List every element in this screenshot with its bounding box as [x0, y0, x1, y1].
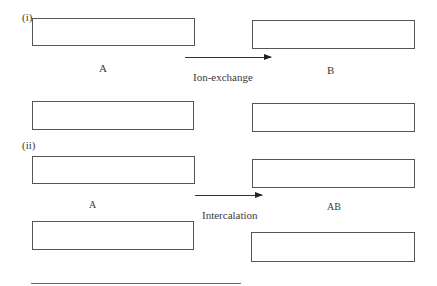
layer-a-top-ii — [32, 156, 195, 184]
layer-ab-top-ii — [252, 159, 415, 188]
layer-a-bottom-ii — [32, 221, 194, 250]
panel-marker-i: (i) — [22, 11, 32, 23]
layer-b-top-i — [252, 20, 415, 49]
layer-a-top-i — [32, 18, 195, 46]
label-a-i: A — [99, 62, 107, 74]
arrow-intercalation — [195, 195, 262, 196]
process-label-ion-exchange: Ion-exchange — [193, 71, 253, 83]
bottom-divider — [31, 283, 241, 284]
arrow-head-icon — [264, 54, 272, 60]
label-a-ii: A — [89, 199, 96, 210]
layer-ab-bottom-ii — [251, 232, 415, 262]
label-ab-ii: AB — [327, 201, 341, 212]
layer-b-bottom-i — [252, 103, 415, 132]
arrow-ion-exchange — [185, 57, 271, 58]
label-b-i: B — [327, 64, 334, 76]
arrow-head-icon — [255, 192, 263, 198]
layer-a-bottom-i — [32, 101, 194, 130]
process-label-intercalation: Intercalation — [202, 209, 258, 221]
panel-marker-ii: (ii) — [22, 139, 35, 151]
